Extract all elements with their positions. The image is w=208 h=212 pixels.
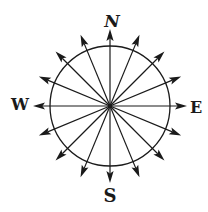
arrow-shaft: [110, 58, 158, 106]
arrow-shaft: [62, 106, 110, 154]
arrow-shaft: [62, 58, 110, 106]
arrow-n: [106, 29, 113, 106]
label-west: W: [10, 95, 30, 114]
compass-rose: N E S W: [0, 0, 208, 212]
arrow-e: [110, 102, 187, 109]
label-south: S: [104, 185, 117, 206]
arrow-ne: [110, 52, 164, 106]
label-east: E: [190, 98, 202, 117]
label-north: N: [103, 11, 121, 31]
center-hub: [108, 104, 112, 108]
arrow-w: [33, 102, 110, 109]
arrow-shaft: [110, 106, 158, 154]
arrow-se: [110, 106, 164, 160]
arrow-sw: [56, 106, 110, 160]
arrow-nw: [56, 52, 110, 106]
arrow-s: [106, 106, 113, 183]
